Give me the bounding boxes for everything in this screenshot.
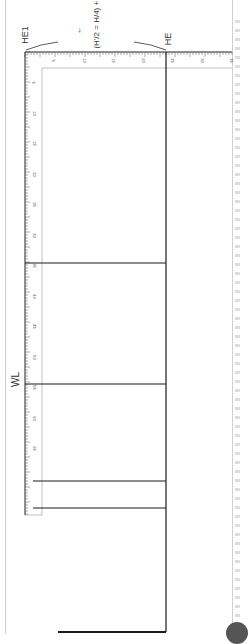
ruler-tick-label: 30 <box>32 233 37 237</box>
ruler-tick-label: 65 <box>32 446 37 450</box>
arrow-icon: ← <box>74 27 83 35</box>
label-he1: HE1 <box>20 26 30 44</box>
label-he: HE <box>163 33 173 46</box>
ruler-tick-label: 25 <box>170 58 175 62</box>
pattern-lines <box>25 52 166 632</box>
ruler-tick-label: 40 <box>32 294 37 298</box>
ruler-tick-label: 15 <box>32 141 37 145</box>
ruler-tick-label: 50 <box>32 355 37 359</box>
ruler-tick-label: 25 <box>32 202 37 206</box>
ruler-tick-label: 10 <box>81 58 86 62</box>
ruler-tick-label: 20 <box>32 172 37 176</box>
formula-label: (H'/2 = H/4) +1 <box>92 0 101 49</box>
ruler-tick-label: 45 <box>32 324 37 328</box>
ruler-tick-label: 10 <box>32 111 37 115</box>
ruler-tick-label: 5 <box>31 81 36 83</box>
ruler-tick-label: 5 <box>51 59 56 61</box>
ruler-tick-label: 55 <box>32 385 37 389</box>
corner-badge <box>226 622 248 644</box>
ruler-tick-label: 20 <box>140 58 145 62</box>
ruler-tick-label: 60 <box>32 416 37 420</box>
ruler-tick-label: 30 <box>199 58 204 62</box>
label-wl: WL <box>10 372 21 387</box>
ruler-tick-label: 35 <box>32 263 37 267</box>
ruler-tick-label: 35 <box>229 58 234 62</box>
ruler-tick-label: 15 <box>111 58 116 62</box>
